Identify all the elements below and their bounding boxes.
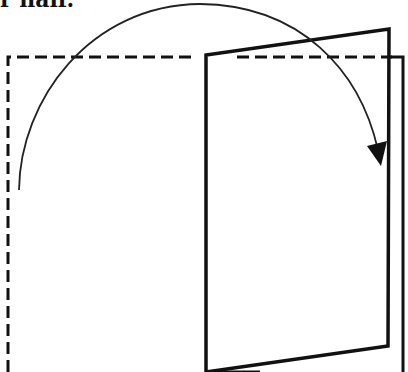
arrowhead-icon [367,141,387,166]
rotated-panel [206,29,389,372]
curved-arrow-icon [19,4,378,190]
door-rotation-diagram [0,0,408,372]
frame-right-edge [391,57,403,372]
dashed-outline [8,57,392,372]
